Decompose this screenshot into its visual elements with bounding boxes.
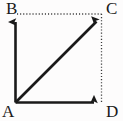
vector-ac [16, 22, 97, 103]
vector-diagram: B C A D [0, 0, 123, 121]
vertex-label-b: B [6, 0, 17, 17]
vertex-label-c: C [106, 0, 117, 17]
vertex-label-a: A [2, 103, 14, 120]
vector-diagram-canvas [0, 0, 123, 121]
vertex-label-d: D [106, 103, 118, 120]
